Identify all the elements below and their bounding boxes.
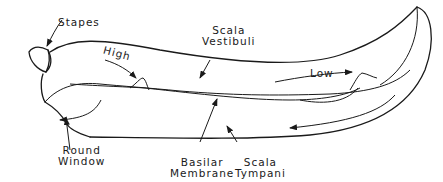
- label-scala-tympani: Scala Tympani: [235, 157, 286, 179]
- scala-tympani-pointer: [227, 126, 237, 142]
- low-wave-trail: [300, 88, 358, 102]
- low-wave-bump: [350, 73, 377, 90]
- apex-wall: [90, 7, 431, 138]
- basilar-membrane-line2: Membrane: [170, 168, 234, 179]
- scala-tympani-line2: Tympani: [235, 168, 286, 179]
- high-arrow: [105, 60, 136, 78]
- stapes-text: Stapes: [58, 16, 100, 28]
- label-stapes: Stapes: [58, 17, 100, 28]
- low-text: Low: [310, 67, 334, 79]
- cochlea-diagram: Stapes Scala Vestibuli High Low Round Wi…: [0, 0, 443, 182]
- basilar-membrane-pointer: [200, 99, 217, 142]
- return-arrow-upper: [60, 100, 101, 120]
- scala-vestibuli-line2: Vestibuli: [202, 36, 256, 47]
- label-low: Low: [310, 68, 334, 79]
- label-round-window: Round Window: [58, 145, 105, 167]
- round-window-line2: Window: [58, 156, 105, 167]
- label-basilar-membrane: Basilar Membrane: [170, 157, 234, 179]
- partition-lower: [70, 84, 360, 100]
- apex-inner: [380, 7, 417, 85]
- stapes-shape: [29, 47, 49, 72]
- label-scala-vestibuli: Scala Vestibuli: [202, 25, 256, 47]
- scala-vestibuli-pointer: [200, 60, 210, 78]
- left-wall: [41, 74, 45, 102]
